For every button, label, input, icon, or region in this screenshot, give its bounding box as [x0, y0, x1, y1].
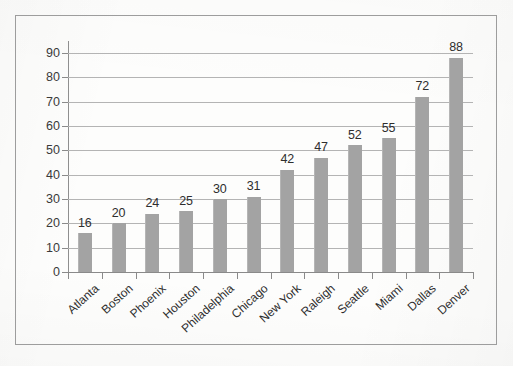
- bar-value-label: 47: [314, 141, 328, 154]
- bar-slot: 72: [406, 53, 440, 272]
- plot-area: 162024253031424752557288: [68, 53, 473, 272]
- y-axis-label: 60: [24, 120, 60, 133]
- bar-value-label: 52: [348, 129, 362, 142]
- bar-slot: 24: [136, 53, 170, 272]
- y-axis-label: 90: [24, 47, 60, 60]
- x-axis-label-text: Miami: [373, 282, 405, 312]
- bar-slot: 88: [439, 53, 473, 272]
- bar-slot: 52: [338, 53, 372, 272]
- bar-slot: 47: [304, 53, 338, 272]
- y-axis-label: 50: [24, 144, 60, 157]
- bar[interactable]: [382, 138, 396, 272]
- bar[interactable]: [348, 145, 362, 272]
- y-axis-label: 40: [24, 169, 60, 182]
- bar[interactable]: [78, 233, 92, 272]
- y-axis-label: 80: [24, 71, 60, 84]
- bar-value-label: 25: [179, 195, 193, 208]
- chart-outer-frame: 0102030405060708090 16202425303142475255…: [15, 15, 497, 345]
- x-tick: [68, 273, 69, 279]
- x-axis-label-text: Atlanta: [65, 282, 101, 316]
- bar-value-label: 24: [145, 197, 159, 210]
- y-axis-tick-labels: 0102030405060708090: [18, 16, 60, 366]
- y-axis-label: 20: [24, 217, 60, 230]
- bar-slot: 25: [169, 53, 203, 272]
- x-axis-label-text: Dallas: [405, 282, 438, 313]
- bar-value-label: 20: [112, 207, 126, 220]
- y-axis-label: 10: [24, 242, 60, 255]
- bar[interactable]: [449, 58, 463, 272]
- bar-value-label: 88: [449, 41, 463, 54]
- bar-value-label: 72: [415, 80, 429, 93]
- bar-slot: 55: [372, 53, 406, 272]
- y-axis-label: 30: [24, 193, 60, 206]
- bar-value-label: 42: [280, 153, 294, 166]
- bar[interactable]: [415, 97, 429, 272]
- bar-value-label: 55: [382, 122, 396, 135]
- bar-value-label: 31: [247, 180, 261, 193]
- bar-value-label: 16: [78, 217, 92, 230]
- y-axis-label: 70: [24, 96, 60, 109]
- y-axis-label: 0: [24, 266, 60, 279]
- bar-slot: 16: [68, 53, 102, 272]
- bar-slot: 31: [237, 53, 271, 272]
- bar-slot: 20: [102, 53, 136, 272]
- bar-value-label: 30: [213, 183, 227, 196]
- bar-slot: 30: [203, 53, 237, 272]
